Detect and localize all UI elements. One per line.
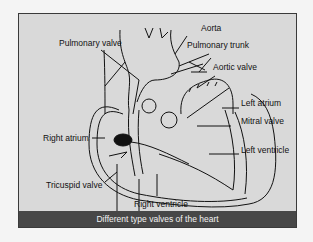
figure-caption: Different type valves of the heart — [19, 211, 296, 227]
label-right-ventricle: Right ventricle — [134, 199, 188, 209]
label-tricuspid-valve: Tricuspid valve — [46, 180, 102, 190]
label-left-ventricle: Left ventricle — [241, 145, 289, 155]
label-pulmonary-valve: Pulmonary valve — [59, 38, 122, 48]
heart-diagram-panel: Aorta Pulmonary valve Pulmonary trunk Ao… — [18, 13, 297, 228]
label-right-atrium: Right atrium — [43, 133, 89, 143]
label-mitral-valve: Mitral valve — [241, 116, 284, 126]
label-aorta: Aorta — [201, 23, 221, 33]
label-pulmonary-trunk: Pulmonary trunk — [187, 40, 249, 50]
label-left-atrium: Left atrium — [241, 98, 281, 108]
label-aortic-valve: Aortic valve — [213, 62, 257, 72]
